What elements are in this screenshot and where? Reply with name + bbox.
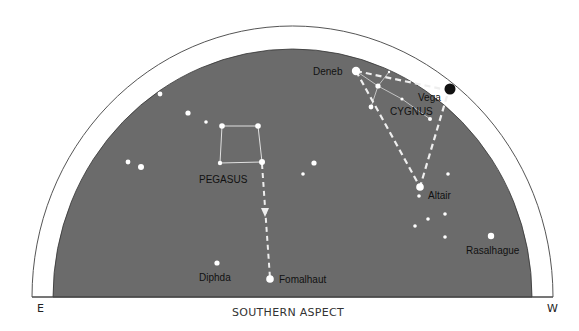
- direction-west: W: [547, 302, 558, 315]
- sky-dome: [53, 49, 532, 297]
- star-label-vega: Vega: [418, 92, 441, 103]
- star-label-rasalhague: Rasalhague: [466, 245, 520, 256]
- star-deneb: [352, 67, 360, 75]
- star-aquila: [443, 235, 447, 239]
- star: [185, 110, 190, 115]
- star-label-diphda: Diphda: [199, 272, 231, 283]
- star-diphda: [214, 260, 219, 265]
- star: [311, 160, 316, 165]
- aspect-title: SOUTHERN ASPECT: [232, 306, 344, 319]
- star-cygnus: [388, 71, 390, 73]
- star-cygnus-albireo: [428, 117, 432, 121]
- star: [126, 160, 131, 165]
- star-cygnus: [400, 97, 403, 100]
- star-aquila: [413, 224, 417, 228]
- star-aquila: [446, 172, 450, 176]
- star: [158, 92, 163, 97]
- star-aquila: [417, 194, 421, 198]
- star-pegasus-algenib: [218, 161, 222, 165]
- constellation-label-pegasus: PEGASUS: [199, 174, 248, 185]
- direction-east: E: [37, 302, 44, 315]
- constellation-label-cygnus: CYGNUS: [390, 106, 433, 117]
- star-rasalhague: [488, 233, 494, 239]
- vega-marker: [445, 84, 456, 95]
- star-pegasus-markab: [255, 123, 261, 129]
- star: [138, 164, 144, 170]
- star: [204, 120, 208, 124]
- star-pegasus-alpheratz: [259, 159, 265, 165]
- star-aquila: [426, 217, 430, 221]
- star-aquila: [443, 212, 447, 216]
- star-label-altair: Altair: [428, 190, 451, 201]
- star-chart: Deneb Vega CYGNUS PEGASUS Altair Rasalha…: [0, 0, 579, 331]
- star-label-deneb: Deneb: [313, 66, 343, 77]
- star-pegasus-scheat: [219, 123, 225, 129]
- star-cygnus-sadr: [375, 83, 380, 88]
- star-cygnus-gienah: [369, 105, 374, 110]
- star-label-fomalhaut: Fomalhaut: [279, 274, 326, 285]
- star: [301, 172, 305, 176]
- star-fomalhaut: [266, 275, 274, 283]
- star-altair: [416, 183, 424, 191]
